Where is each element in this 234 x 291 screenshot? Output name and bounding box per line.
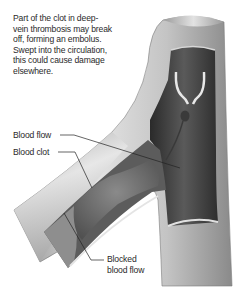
label-blocked-line1: Blocked [107, 254, 137, 265]
label-blood-clot: Blood clot [13, 147, 49, 158]
label-blocked-line2: blood flow [107, 265, 144, 276]
embolus [181, 111, 190, 122]
intro-caption: Part of the clot in deep-vein thrombosis… [13, 13, 113, 77]
label-blood-flow: Blood flow [13, 130, 51, 141]
